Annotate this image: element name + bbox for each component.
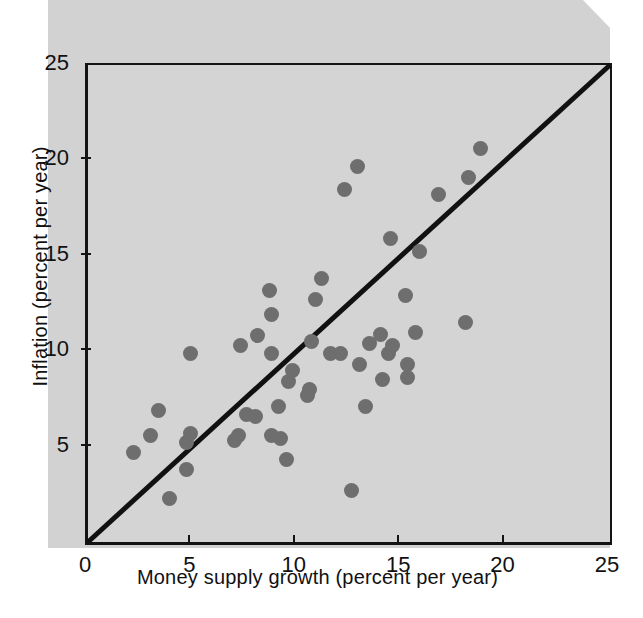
x-axis-tick-mark bbox=[293, 535, 295, 545]
scatter-point bbox=[383, 231, 398, 246]
plot-inner bbox=[88, 65, 610, 542]
scatter-point bbox=[262, 283, 277, 298]
y-axis-title: Inflation (percent per year) bbox=[29, 57, 52, 477]
scatter-point bbox=[264, 307, 279, 322]
scatter-point bbox=[233, 338, 248, 353]
scatter-point bbox=[273, 431, 288, 446]
scan-right-margin bbox=[610, 0, 643, 548]
scatter-point bbox=[279, 452, 294, 467]
y-axis-tick-mark bbox=[81, 348, 91, 350]
scatter-point bbox=[337, 182, 352, 197]
plot-area bbox=[85, 63, 612, 545]
reference-line-overlay bbox=[88, 65, 610, 542]
y-axis-tick-mark bbox=[81, 444, 91, 446]
scatter-point bbox=[400, 357, 415, 372]
scatter-point bbox=[385, 338, 400, 353]
scatter-point bbox=[398, 288, 413, 303]
scatter-point bbox=[162, 491, 177, 506]
scatter-point bbox=[143, 428, 158, 443]
scatter-point bbox=[302, 382, 317, 397]
scatter-point bbox=[314, 271, 329, 286]
x-axis-title: Money supply growth (percent per year) bbox=[0, 566, 643, 589]
y-axis-tick-mark bbox=[81, 157, 91, 159]
scatter-point bbox=[373, 327, 388, 342]
scatter-point bbox=[308, 292, 323, 307]
scatter-point bbox=[473, 141, 488, 156]
scatter-point bbox=[431, 187, 446, 202]
scatter-point bbox=[333, 346, 348, 361]
scatter-point bbox=[231, 428, 246, 443]
scatter-point bbox=[285, 363, 300, 378]
scatter-point bbox=[264, 346, 279, 361]
scatter-point bbox=[358, 399, 373, 414]
scatter-point bbox=[151, 403, 166, 418]
scatter-point bbox=[248, 409, 263, 424]
scatter-point bbox=[304, 334, 319, 349]
forty-five-degree-line bbox=[88, 65, 610, 542]
x-axis-tick-mark bbox=[188, 535, 190, 545]
x-axis-tick-mark bbox=[502, 535, 504, 545]
scatter-point bbox=[179, 462, 194, 477]
x-axis-tick-mark bbox=[397, 535, 399, 545]
scatter-point bbox=[271, 399, 286, 414]
scatter-point bbox=[461, 170, 476, 185]
scatter-point bbox=[126, 445, 141, 460]
scatter-point bbox=[412, 244, 427, 259]
scatter-point bbox=[183, 426, 198, 441]
scatter-point bbox=[183, 346, 198, 361]
y-axis-tick-mark bbox=[81, 253, 91, 255]
scatter-point bbox=[408, 325, 423, 340]
scatter-point bbox=[350, 159, 365, 174]
scatter-point bbox=[250, 328, 265, 343]
scatter-point bbox=[352, 357, 367, 372]
scatter-point bbox=[458, 315, 473, 330]
scatter-point bbox=[375, 372, 390, 387]
chart-figure: 5101520250510152025 Money supply growth … bbox=[0, 0, 643, 618]
scatter-point bbox=[400, 370, 415, 385]
scatter-point bbox=[344, 483, 359, 498]
